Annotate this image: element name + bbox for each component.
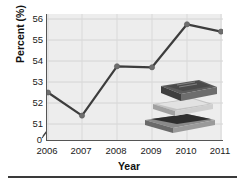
x-tick-label: 2011 <box>200 145 240 156</box>
y-tick-label: 56 <box>25 14 43 24</box>
x-axis-line <box>46 140 223 141</box>
y-tick-label: 55 <box>25 35 43 45</box>
data-point <box>218 29 223 34</box>
book-middle <box>153 98 213 116</box>
stack-of-books-icon <box>141 76 219 134</box>
data-point <box>47 90 51 95</box>
y-tick-label: 52 <box>25 98 43 108</box>
chart-figure: Percent (%) 56 55 54 53 52 51 0 <box>0 0 245 183</box>
x-axis-title: Year <box>34 160 224 172</box>
y-tick-label: 53 <box>25 77 43 87</box>
data-point <box>114 64 119 69</box>
data-point <box>184 22 189 27</box>
y-tick-label: 54 <box>25 56 43 66</box>
book-top <box>161 80 217 101</box>
data-point <box>79 113 84 118</box>
x-tick-label: 2009 <box>131 145 171 156</box>
book-bottom <box>145 114 215 133</box>
x-tick-label: 2008 <box>96 145 136 156</box>
x-tick-label: 2007 <box>61 145 101 156</box>
data-point <box>149 65 154 70</box>
bottom-divider <box>8 176 237 178</box>
